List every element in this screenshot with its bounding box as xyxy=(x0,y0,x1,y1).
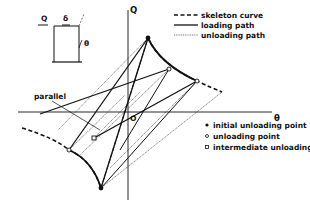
hysteresis-diagram: Q δ θ Q θ O parallel xyxy=(0,0,310,208)
legend-unloading-path: unloading path xyxy=(201,31,265,40)
initial-unloading-point-upper xyxy=(146,36,151,41)
legend-intermediate-unloading-point: intermediate unloading point xyxy=(213,143,310,152)
legend-unloading-point: unloading point xyxy=(213,132,280,141)
inset-rotation-label: θ xyxy=(84,39,89,48)
legend-lines: skeleton curve loading path unloading pa… xyxy=(174,11,265,40)
skeleton-envelope xyxy=(69,38,197,188)
skeleton-curve xyxy=(22,38,222,188)
legend-initial-unloading-point: initial unloading point xyxy=(213,121,307,130)
initial-unloading-point-lower xyxy=(99,186,104,191)
parallel-label: parallel xyxy=(34,92,66,101)
legend-skeleton-curve: skeleton curve xyxy=(201,11,263,20)
unloading-point xyxy=(167,67,171,71)
inset-displacement-label: δ xyxy=(63,14,68,23)
legend-markers: initial unloading point unloading point … xyxy=(205,121,310,152)
q-axis-label: Q xyxy=(130,5,137,15)
unloading-point xyxy=(195,79,199,83)
intermediate-unloading-point xyxy=(92,136,96,140)
loading-paths xyxy=(40,38,197,188)
inset-force-label: Q xyxy=(41,14,47,23)
legend-loading-path: loading path xyxy=(201,21,254,30)
unloading-point xyxy=(67,148,71,152)
